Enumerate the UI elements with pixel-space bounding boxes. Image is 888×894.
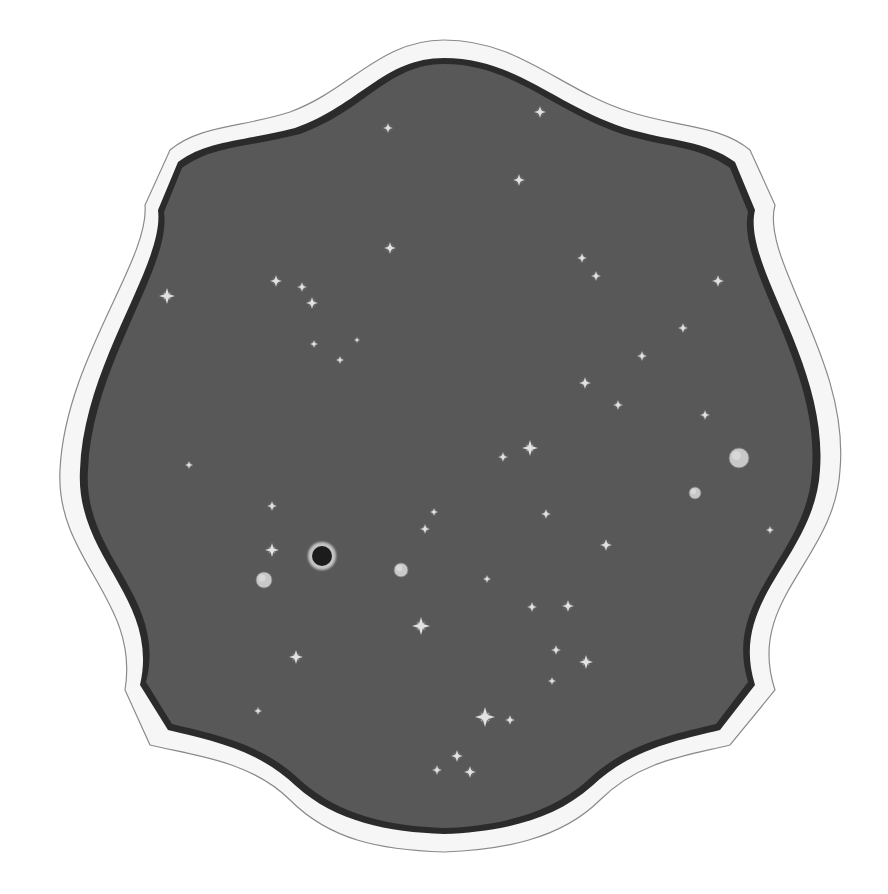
planet-icon — [256, 572, 272, 588]
star-chart-painting — [0, 0, 888, 894]
planet-icon — [729, 448, 749, 468]
night-sky — [88, 64, 813, 828]
eclipse-icon — [308, 542, 336, 570]
planet-icon — [394, 563, 408, 577]
planet-icon — [689, 487, 701, 499]
